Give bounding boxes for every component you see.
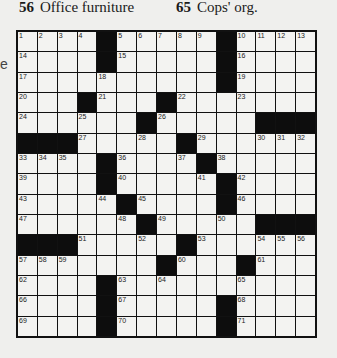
grid-cell[interactable]: [296, 174, 315, 193]
grid-cell[interactable]: [58, 73, 77, 92]
grid-cell[interactable]: [38, 73, 57, 92]
grid-cell[interactable]: [38, 317, 57, 336]
grid-cell[interactable]: [197, 317, 216, 336]
grid-cell[interactable]: [137, 276, 156, 295]
grid-cell[interactable]: 9: [197, 32, 216, 51]
grid-cell[interactable]: [217, 276, 236, 295]
grid-cell[interactable]: [177, 113, 196, 132]
grid-cell[interactable]: 46: [237, 195, 256, 214]
grid-cell[interactable]: 30: [256, 134, 275, 153]
grid-cell[interactable]: 38: [217, 154, 236, 173]
grid-cell[interactable]: 47: [18, 215, 37, 234]
grid-cell[interactable]: 3: [58, 32, 77, 51]
grid-cell[interactable]: 54: [256, 235, 275, 254]
grid-cell[interactable]: [296, 154, 315, 173]
grid-cell[interactable]: [177, 52, 196, 71]
grid-cell[interactable]: [157, 174, 176, 193]
grid-cell[interactable]: [276, 73, 295, 92]
grid-cell[interactable]: 14: [18, 52, 37, 71]
grid-cell[interactable]: 21: [97, 93, 116, 112]
grid-cell[interactable]: [256, 296, 275, 315]
grid-cell[interactable]: [117, 134, 136, 153]
grid-cell[interactable]: 62: [18, 276, 37, 295]
grid-cell[interactable]: [237, 235, 256, 254]
grid-cell[interactable]: [296, 256, 315, 275]
grid-cell[interactable]: [256, 73, 275, 92]
grid-cell[interactable]: [78, 256, 97, 275]
grid-cell[interactable]: 22: [177, 93, 196, 112]
grid-cell[interactable]: [137, 52, 156, 71]
grid-cell[interactable]: 5: [117, 32, 136, 51]
grid-cell[interactable]: [177, 317, 196, 336]
grid-cell[interactable]: [78, 73, 97, 92]
grid-cell[interactable]: 31: [276, 134, 295, 153]
grid-cell[interactable]: [157, 317, 176, 336]
grid-cell[interactable]: [58, 215, 77, 234]
grid-cell[interactable]: [78, 154, 97, 173]
grid-cell[interactable]: 24: [18, 113, 37, 132]
grid-cell[interactable]: [237, 113, 256, 132]
grid-cell[interactable]: [38, 52, 57, 71]
grid-cell[interactable]: [157, 134, 176, 153]
grid-cell[interactable]: [38, 113, 57, 132]
grid-cell[interactable]: [197, 93, 216, 112]
grid-cell[interactable]: [117, 93, 136, 112]
grid-cell[interactable]: 41: [197, 174, 216, 193]
grid-cell[interactable]: [97, 256, 116, 275]
grid-cell[interactable]: 20: [18, 93, 37, 112]
grid-cell[interactable]: 32: [296, 134, 315, 153]
grid-cell[interactable]: [58, 276, 77, 295]
grid-cell[interactable]: [177, 195, 196, 214]
grid-cell[interactable]: [137, 154, 156, 173]
grid-cell[interactable]: 34: [38, 154, 57, 173]
grid-cell[interactable]: 6: [137, 32, 156, 51]
grid-cell[interactable]: [117, 235, 136, 254]
grid-cell[interactable]: 58: [38, 256, 57, 275]
grid-cell[interactable]: [117, 256, 136, 275]
grid-cell[interactable]: 51: [78, 235, 97, 254]
grid-cell[interactable]: 64: [157, 276, 176, 295]
grid-cell[interactable]: [177, 276, 196, 295]
grid-cell[interactable]: [117, 113, 136, 132]
grid-cell[interactable]: [276, 256, 295, 275]
grid-cell[interactable]: [197, 296, 216, 315]
grid-cell[interactable]: [256, 317, 275, 336]
grid-cell[interactable]: [58, 52, 77, 71]
grid-cell[interactable]: 10: [237, 32, 256, 51]
grid-cell[interactable]: 70: [117, 317, 136, 336]
grid-cell[interactable]: [137, 256, 156, 275]
grid-cell[interactable]: 28: [137, 134, 156, 153]
grid-cell[interactable]: [97, 235, 116, 254]
grid-cell[interactable]: [217, 235, 236, 254]
grid-cell[interactable]: [38, 296, 57, 315]
grid-cell[interactable]: 69: [18, 317, 37, 336]
grid-cell[interactable]: 27: [78, 134, 97, 153]
grid-cell[interactable]: [78, 52, 97, 71]
grid-cell[interactable]: 67: [117, 296, 136, 315]
grid-cell[interactable]: 66: [18, 296, 37, 315]
grid-cell[interactable]: [137, 174, 156, 193]
grid-cell[interactable]: 68: [237, 296, 256, 315]
grid-cell[interactable]: [137, 73, 156, 92]
grid-cell[interactable]: 60: [177, 256, 196, 275]
grid-cell[interactable]: 17: [18, 73, 37, 92]
grid-cell[interactable]: [276, 174, 295, 193]
grid-cell[interactable]: [296, 93, 315, 112]
grid-cell[interactable]: [78, 215, 97, 234]
grid-cell[interactable]: [217, 93, 236, 112]
grid-cell[interactable]: [58, 296, 77, 315]
grid-cell[interactable]: [38, 174, 57, 193]
grid-cell[interactable]: [296, 52, 315, 71]
grid-cell[interactable]: 12: [276, 32, 295, 51]
grid-cell[interactable]: [197, 276, 216, 295]
grid-cell[interactable]: [38, 276, 57, 295]
grid-cell[interactable]: [197, 73, 216, 92]
grid-cell[interactable]: [217, 134, 236, 153]
grid-cell[interactable]: [58, 195, 77, 214]
grid-cell[interactable]: [197, 215, 216, 234]
grid-cell[interactable]: [296, 296, 315, 315]
grid-cell[interactable]: [296, 73, 315, 92]
grid-cell[interactable]: [38, 215, 57, 234]
grid-cell[interactable]: 55: [276, 235, 295, 254]
grid-cell[interactable]: [157, 154, 176, 173]
